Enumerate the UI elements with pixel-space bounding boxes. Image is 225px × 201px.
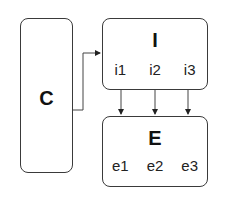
edge-c-to-i bbox=[72, 53, 100, 110]
node-e-label: E bbox=[103, 127, 207, 150]
item-i3: i3 bbox=[184, 61, 196, 78]
node-e-items: e1 e2 e3 bbox=[103, 157, 207, 174]
node-i-label: I bbox=[103, 29, 207, 52]
node-i-items: i1 i2 i3 bbox=[103, 61, 207, 78]
node-c: C bbox=[20, 18, 73, 173]
node-e: E e1 e2 e3 bbox=[102, 116, 208, 187]
node-c-label: C bbox=[21, 87, 72, 110]
item-i2: i2 bbox=[149, 61, 161, 78]
item-e3: e3 bbox=[181, 157, 198, 174]
item-e1: e1 bbox=[112, 157, 129, 174]
item-i1: i1 bbox=[114, 61, 126, 78]
node-i: I i1 i2 i3 bbox=[102, 18, 208, 90]
item-e2: e2 bbox=[147, 157, 164, 174]
